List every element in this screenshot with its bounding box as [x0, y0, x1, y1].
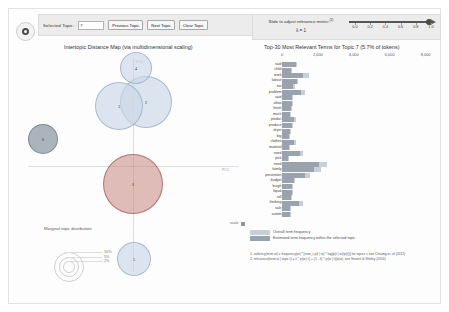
term-label[interactable]: dryer — [274, 128, 282, 133]
term-label[interactable]: need — [274, 162, 282, 167]
topic-frequency-bar — [282, 156, 288, 161]
term-label[interactable]: said — [275, 62, 281, 67]
term-label[interactable]: thinking — [269, 200, 281, 205]
previous-topic-button[interactable]: Previous Topic — [108, 20, 143, 30]
bar-chart-row[interactable]: budget — [246, 178, 442, 183]
bar-chart-row[interactable]: roll — [246, 195, 442, 200]
marginal-label-5: 5% — [104, 255, 110, 259]
slider-track[interactable] — [349, 21, 431, 23]
topic-frequency-bar — [282, 106, 291, 111]
topic-frequency-bar — [282, 129, 290, 134]
bar-chart-row[interactable]: dryer — [246, 129, 442, 134]
term-label[interactable]: much — [273, 112, 282, 117]
relevance-control-bar: Slide to adjust relevance metric:(2) λ =… — [252, 14, 441, 40]
topic-frequency-bar — [282, 134, 289, 139]
term-label[interactable]: predict — [271, 117, 282, 122]
x-axis-tick-label: 6,000 — [385, 52, 395, 57]
bar-chart-row[interactable]: eat — [246, 84, 442, 89]
topic-frequency-bar — [282, 68, 291, 73]
bar-chart-row[interactable]: much — [246, 112, 442, 117]
bar-chart-row[interactable]: need — [246, 151, 442, 156]
bar-chart-row[interactable]: thinking — [246, 201, 442, 206]
term-label[interactable]: eat — [277, 84, 282, 89]
clear-topic-button[interactable]: Clear Topic — [179, 20, 208, 30]
bar-chart-row[interactable]: pick — [246, 156, 442, 161]
term-label[interactable]: work — [274, 73, 281, 78]
term-label[interactable]: roll — [277, 195, 282, 200]
bar-chart-row[interactable]: family — [246, 167, 442, 172]
x-axis-tick-label: 2,000 — [313, 52, 323, 57]
topic-frequency-bar — [282, 184, 292, 189]
bar-chart-row[interactable]: prevention — [246, 173, 442, 178]
term-label[interactable]: child — [274, 67, 281, 72]
x-axis-tick-label: 4,000 — [349, 52, 359, 57]
term-label[interactable]: autom — [272, 212, 282, 217]
term-label[interactable]: family — [272, 167, 281, 172]
lambda-value-label: λ = 1 — [258, 28, 344, 33]
bar-chart-row[interactable]: finish — [246, 106, 442, 111]
bar-chart-row[interactable]: produce — [246, 123, 442, 128]
term-label[interactable]: pick — [275, 156, 281, 161]
topic-frequency-bar — [282, 90, 301, 95]
bar-chart-row[interactable]: child — [246, 68, 442, 73]
term-label[interactable]: produce — [269, 123, 282, 128]
topic-frequency-bar — [282, 190, 292, 195]
bar-chart-row[interactable]: autom — [246, 212, 442, 217]
term-label[interactable]: need — [274, 151, 282, 156]
term-label[interactable]: clothes — [270, 139, 281, 144]
term-label[interactable]: big — [277, 134, 282, 139]
topic-bubble-1[interactable]: 1 — [103, 154, 163, 214]
bar-chart-rows: saidchildworklaboureatproblemsaidallowfi… — [246, 62, 442, 217]
legend-overall-row: Overall term frequency — [250, 230, 440, 235]
term-label[interactable]: sale — [275, 206, 281, 211]
x-axis-tick-label: 8,000 — [421, 52, 431, 57]
topic-frequency-bar — [282, 195, 291, 200]
bar-chart-row[interactable]: burgh — [246, 184, 442, 189]
term-label[interactable]: allow — [274, 101, 282, 106]
term-label[interactable]: labour — [272, 78, 282, 83]
topic-bubble-6[interactable]: 6 — [28, 124, 58, 154]
bar-chart-row[interactable]: predict — [246, 117, 442, 122]
topic-frequency-bar — [282, 62, 296, 67]
term-label[interactable]: liquid — [273, 189, 281, 194]
bar-chart-row[interactable]: liquid — [246, 190, 442, 195]
bar-chart-legend: scale Overall term frequency Estimated t… — [250, 230, 440, 242]
term-label[interactable]: material — [269, 145, 281, 150]
bar-chart-row[interactable]: sale — [246, 206, 442, 211]
relevance-slider[interactable]: 0.00.20.40.60.81.0 — [349, 19, 437, 34]
bar-chart-row[interactable]: need — [246, 162, 442, 167]
term-label[interactable]: finish — [273, 106, 281, 111]
term-label[interactable]: burgh — [273, 184, 282, 189]
bar-chart-row[interactable]: work — [246, 73, 442, 78]
topic-bubble-4[interactable]: 4 — [120, 52, 152, 84]
bar-chart-row[interactable]: said — [246, 62, 442, 67]
legend-estimated-row: Estimated term frequency within the sele… — [250, 236, 440, 241]
term-frequency-bar-chart[interactable]: 02,0004,0006,0008,000 saidchildworklabou… — [246, 52, 442, 224]
bar-chart-row[interactable]: labour — [246, 79, 442, 84]
topic-bubble-label: 3 — [118, 104, 120, 109]
term-label[interactable]: prevention — [265, 173, 281, 178]
topic-frequency-bar — [282, 84, 293, 89]
term-label[interactable]: said — [275, 95, 281, 100]
bar-chart-row[interactable]: big — [246, 134, 442, 139]
relevance-footnote-ref: (2) — [330, 18, 334, 22]
record-circle-icon[interactable] — [16, 22, 35, 41]
topic-frequency-bar — [282, 212, 290, 217]
bar-chart-row[interactable]: clothes — [246, 140, 442, 145]
bar-chart-x-axis: 02,0004,0006,0008,000 — [246, 52, 442, 61]
topic-frequency-bar — [282, 140, 294, 145]
slider-tick-label: 0.2 — [368, 25, 373, 29]
selected-topic-input[interactable] — [78, 21, 104, 30]
slider-tick-label: 0.4 — [383, 25, 388, 29]
term-label[interactable]: budget — [271, 178, 282, 183]
topic-frequency-bar — [282, 79, 297, 84]
bar-chart-row[interactable]: material — [246, 145, 442, 150]
bar-chart-row[interactable]: said — [246, 95, 442, 100]
topic-frequency-bar — [282, 101, 292, 106]
next-topic-button[interactable]: Next Topic — [147, 20, 174, 30]
term-label[interactable]: problem — [269, 90, 282, 95]
selected-topic-label: Selected Topic: — [43, 23, 74, 28]
bar-chart-row[interactable]: problem — [246, 90, 442, 95]
topic-bubble-3[interactable]: 3 — [95, 82, 143, 130]
bar-chart-row[interactable]: allow — [246, 101, 442, 106]
